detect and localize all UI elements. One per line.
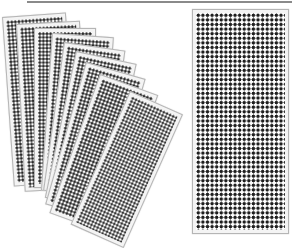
upright-perforated-sheet — [192, 9, 289, 234]
dot-grid — [196, 13, 285, 230]
product-photo — [0, 0, 292, 248]
